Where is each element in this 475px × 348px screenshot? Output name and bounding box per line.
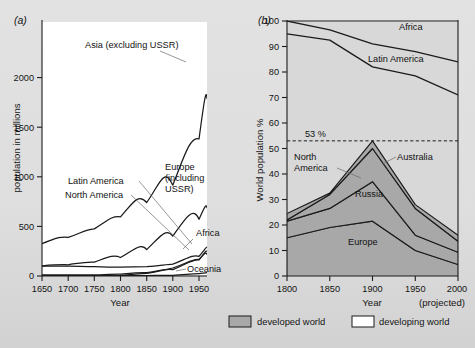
label-b-europe: Europe <box>348 237 378 247</box>
panel-b-ytick-20: 20 <box>269 220 279 230</box>
panel-a-xtick-1800: 1800 <box>110 284 130 294</box>
panel-b-ytick-30: 30 <box>269 195 279 205</box>
panel-a-xtick-1900: 1900 <box>163 284 183 294</box>
label-latin-america: Latin America <box>68 176 125 186</box>
panel-b-ytick-0: 0 <box>274 271 279 281</box>
panel-b-y-axis-title: World population % <box>254 118 265 201</box>
label-b-russia: Russia <box>355 189 384 199</box>
panel-b-xtick-2000: 2000 <box>447 284 467 294</box>
panel-b-x-axis-title: Year <box>362 297 382 308</box>
panel-b-xtick-1850: 1850 <box>320 284 340 294</box>
panel-b-ytick-40: 40 <box>269 169 279 179</box>
panel-b-ytick-100: 100 <box>264 16 279 26</box>
panel-b-x-ticks: 1800 1850 1900 1950 2000 <box>277 276 467 294</box>
panel-b-xtick-1950: 1950 <box>405 284 425 294</box>
panel-a: (a) 0 500 1000 1500 2000 1650 <box>11 14 222 308</box>
panel-a-id: (a) <box>14 14 27 26</box>
panel-b-ytick-70: 70 <box>269 93 279 103</box>
panel-b-ytick-10: 10 <box>269 246 279 256</box>
panel-b-x-axis-note: (projected) <box>419 297 465 308</box>
panel-b-ytick-60: 60 <box>269 118 279 128</box>
panel-b: (b) 0 10 20 30 40 50 60 70 80 <box>254 14 467 308</box>
label-europe-line2: (including <box>165 173 204 183</box>
label-europe-line3: USSR) <box>165 184 194 194</box>
panel-a-xtick-1650: 1650 <box>32 284 52 294</box>
label-b-latin-america: Latin America <box>368 54 425 64</box>
figure-legend: developed world developing world <box>229 316 449 327</box>
panel-a-x-axis-title: Year <box>110 297 130 308</box>
figure-container: (a) 0 500 1000 1500 2000 1650 <box>0 0 475 348</box>
label-oceania: Oceania <box>187 264 222 274</box>
panel-b-ytick-90: 90 <box>269 42 279 52</box>
legend-swatch-developed <box>229 316 251 327</box>
label-b-africa: Africa <box>399 22 423 32</box>
panel-a-xtick-1750: 1750 <box>84 284 104 294</box>
legend-label-developing: developing world <box>379 316 449 327</box>
panel-a-ytick-2000: 2000 <box>14 73 34 83</box>
panel-b-xtick-1800: 1800 <box>277 284 297 294</box>
label-asia: Asia (excluding USSR) <box>85 40 178 50</box>
figure-svg: (a) 0 500 1000 1500 2000 1650 <box>0 0 475 348</box>
label-africa: Africa <box>196 228 220 238</box>
label-b-north-america-line2: America <box>294 163 329 173</box>
panel-b-y-ticks: 0 10 20 30 40 50 60 70 80 90 100 <box>264 16 287 281</box>
panel-a-xtick-1950: 1950 <box>189 284 209 294</box>
annotation-53-percent: 53 % <box>305 129 326 139</box>
label-b-north-america-line1: North <box>294 152 316 162</box>
panel-a-y-axis-title: population in millions <box>11 103 22 192</box>
panel-a-xtick-1850: 1850 <box>136 284 156 294</box>
label-north-america: North America <box>65 190 124 200</box>
label-b-australia: Australia <box>397 152 434 162</box>
panel-a-ytick-0: 0 <box>29 271 34 281</box>
panel-a-xtick-1700: 1700 <box>58 284 78 294</box>
legend-swatch-developing <box>352 316 374 327</box>
panel-b-xtick-1900: 1900 <box>362 284 382 294</box>
panel-b-ytick-50: 50 <box>269 144 279 154</box>
panel-a-ytick-500: 500 <box>19 222 34 232</box>
legend-label-developed: developed world <box>257 316 325 327</box>
panel-b-ytick-80: 80 <box>269 67 279 77</box>
panel-a-x-ticks: 1650 1700 1750 1800 1850 1900 1950 <box>32 276 209 294</box>
label-europe-line1: Europe <box>165 162 195 172</box>
